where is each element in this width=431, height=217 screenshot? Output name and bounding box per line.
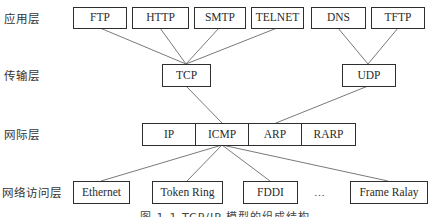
layer-label-transport: 传输层 — [4, 67, 40, 83]
ellipsis: … — [314, 186, 325, 198]
protocol-box-udp: UDP — [342, 64, 396, 87]
protocol-box-icmp: ICMP — [196, 123, 249, 146]
protocol-box-smtp: SMTP — [194, 7, 246, 29]
layer-label-network-access: 网络访问层 — [2, 184, 62, 200]
protocol-box-token-ring: Token Ring — [152, 181, 223, 204]
protocol-box-frame-relay: Frame Ralay — [350, 181, 428, 204]
protocol-box-tftp: TFTP — [371, 7, 425, 29]
tcpip-model-diagram: 应用层 传输层 网际层 网络访问层 FTP HTTP SMTP TELNET D… — [0, 0, 431, 217]
protocol-box-fddi: FDDI — [243, 181, 298, 204]
protocol-box-dns: DNS — [311, 7, 366, 29]
protocol-box-http: HTTP — [132, 7, 189, 29]
protocol-box-ftp: FTP — [73, 7, 127, 29]
protocol-box-arp: ARP — [249, 123, 302, 146]
protocol-box-tcp: TCP — [162, 64, 211, 87]
protocol-box-rarp: RARP — [302, 123, 356, 146]
protocol-box-telnet: TELNET — [251, 7, 304, 29]
protocol-box-ip: IP — [142, 123, 196, 146]
figure-caption: 图 1-1 TCP/IP 模型的组成结构 — [140, 208, 310, 217]
layer-label-internet: 网际层 — [4, 126, 40, 142]
protocol-box-ethernet: Ethernet — [73, 181, 130, 204]
layer-label-application: 应用层 — [4, 10, 40, 26]
